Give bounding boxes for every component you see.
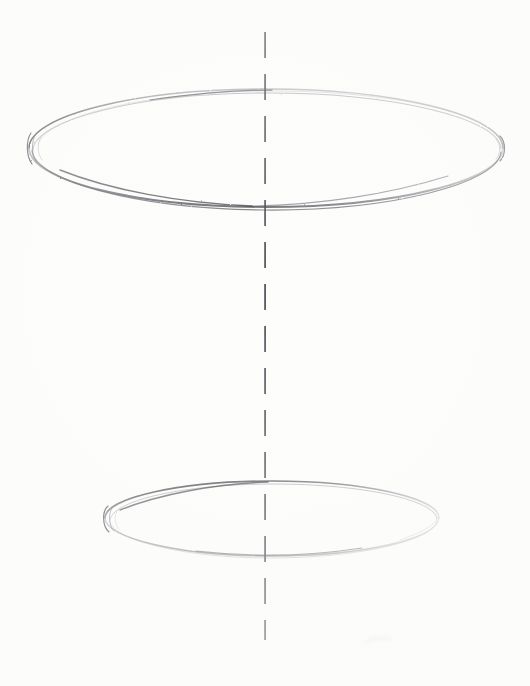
vertical-axis [265, 32, 266, 640]
bottom-ellipse-left-tip-pass-3 [115, 510, 119, 529]
bottom-ellipse-dark-emphasis [120, 482, 268, 510]
bottom-ellipse-upper-arc [105, 481, 439, 518]
bottom-ellipse-lower-arc [105, 518, 439, 556]
top-ellipse-ghost-pass [38, 91, 504, 145]
top-ellipse-second-pass-upper [33, 93, 501, 150]
bottom-ellipse-second-pass-upper [110, 484, 437, 520]
eraser-smudge [363, 636, 391, 643]
top-ellipse-dark-emphasis-right [252, 176, 448, 206]
bottom-ellipse-second-pass-lower [110, 521, 437, 558]
bottom-ellipse-bottom-emphasis [196, 548, 362, 555]
top-ellipse-second-pass-lower [32, 150, 501, 210]
bottom-ellipse [104, 481, 439, 558]
sketch-svg [0, 0, 530, 686]
top-ellipse [27, 89, 504, 210]
eraser-smudge-stroke [363, 639, 391, 643]
sketch-canvas [0, 0, 530, 686]
